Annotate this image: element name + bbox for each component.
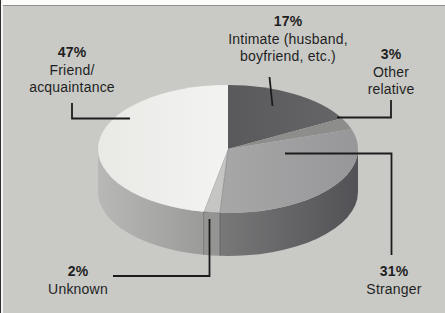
label-unknown-pct: 2% [48,263,108,281]
scan-edge-left [0,0,3,313]
label-stranger-line1: Stranger [366,281,421,299]
label-unknown-line1: Unknown [48,281,108,299]
label-friend-line2: acquaintance [29,79,115,97]
label-unknown: 2% Unknown [48,263,108,298]
label-other-relative-line1: Other [368,64,415,82]
leader-line-other-relative [337,100,391,118]
label-intimate-line1: Intimate (husband, [228,31,348,49]
label-other-relative: 3% Other relative [368,46,415,99]
scan-edge-top [0,0,445,6]
label-intimate-pct: 17% [228,13,348,31]
pie-3d-body [98,85,358,256]
label-intimate: 17% Intimate (husband, boyfriend, etc.) [228,13,348,66]
label-friend-line1: Friend/ [29,62,115,80]
label-friend-acquaintance: 47% Friend/ acquaintance [29,44,115,97]
pie-side-unknown [204,212,220,256]
label-stranger-pct: 31% [366,263,421,281]
label-friend-pct: 47% [29,44,115,62]
label-other-relative-line2: relative [368,81,415,99]
pie-chart-figure: 47% Friend/ acquaintance 17% Intimate (h… [0,0,445,313]
label-stranger: 31% Stranger [366,263,421,298]
label-intimate-line2: boyfriend, etc.) [228,48,348,66]
label-other-relative-pct: 3% [368,46,415,64]
